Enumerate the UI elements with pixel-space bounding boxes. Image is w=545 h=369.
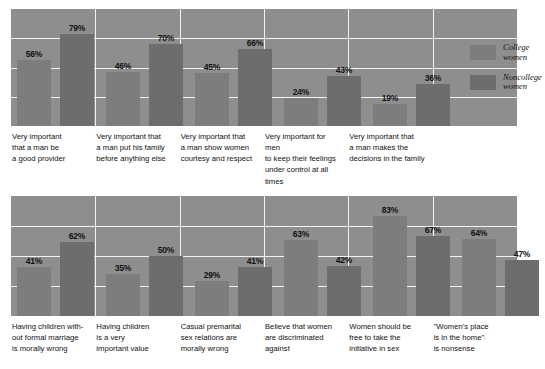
group-caption: Casual premaritalsex relations aremorall… <box>180 321 264 354</box>
bar-college <box>462 239 496 316</box>
bar-value-label: 24% <box>293 87 309 97</box>
bar-value-label: 42% <box>336 255 352 265</box>
bar-value-label: 56% <box>26 49 42 59</box>
bar-value-label: 35% <box>115 263 131 273</box>
bar-group: 45%66% <box>189 9 278 126</box>
bar-column: 67% <box>416 196 450 316</box>
bar-college <box>17 267 51 316</box>
bar-column: 29% <box>195 196 229 316</box>
bar-column: 35% <box>106 196 140 316</box>
bar-column: 36% <box>416 9 450 126</box>
group-caption: Very important thata man makes thedecisi… <box>348 131 432 187</box>
bar-noncollege <box>327 76 361 126</box>
plot-area-top: 56%79%46%70%45%66%24%43%19%36%Collegewom… <box>11 9 517 126</box>
bar-value-label: 63% <box>293 229 309 239</box>
bar-noncollege <box>149 44 183 126</box>
bar-college <box>284 240 318 316</box>
bar-column: 43% <box>327 9 361 126</box>
bar-group: 24%43% <box>278 9 367 126</box>
bar-group: 19%36% <box>367 9 456 126</box>
bar-column: 70% <box>149 9 183 126</box>
bar-column: 56% <box>17 9 51 126</box>
bar-value-label: 83% <box>382 205 398 215</box>
bar-noncollege <box>416 84 450 126</box>
group-caption: Very important thata man put his familyb… <box>95 131 179 187</box>
bar-column: 42% <box>327 196 361 316</box>
bar-group: 64%47% <box>456 196 545 316</box>
group-caption: Very important for mento keep their feel… <box>264 131 348 187</box>
group-caption: Very important thata man show womencourt… <box>180 131 264 187</box>
bar-value-label: 70% <box>158 33 174 43</box>
bar-noncollege <box>238 267 272 316</box>
bar-column: 46% <box>106 9 140 126</box>
bar-column: 64% <box>462 196 496 316</box>
bar-group: 46%70% <box>100 9 189 126</box>
group-caption: Believe that womenare discriminatedagain… <box>264 321 348 354</box>
group-caption: Having childrenis a veryimportant value <box>95 321 179 354</box>
bar-college <box>106 72 140 126</box>
bar-groups-top: 56%79%46%70%45%66%24%43%19%36%Collegewom… <box>11 9 517 126</box>
bar-college <box>284 98 318 126</box>
bar-noncollege <box>238 49 272 126</box>
legend-label-noncollege: Noncollegewomen <box>503 73 542 92</box>
chart-panel-bottom: 41%62%35%50%29%41%63%42%83%67%64%47% Hav… <box>11 196 517 354</box>
legend-item-noncollege: Noncollegewomen <box>470 73 542 92</box>
bar-column: 62% <box>60 196 94 316</box>
bar-group: 35%50% <box>100 196 189 316</box>
group-caption: "Women's placeis in the home"is nonsense <box>433 321 517 354</box>
bar-column: 83% <box>373 196 407 316</box>
chart-legend: CollegewomenNoncollegewomen <box>456 9 542 126</box>
bar-noncollege <box>416 236 450 316</box>
bar-column: 79% <box>60 9 94 126</box>
bar-value-label: 19% <box>382 93 398 103</box>
legend-swatch-noncollege <box>470 75 496 90</box>
group-caption: Having children with-out formal marriage… <box>11 321 95 354</box>
bar-group: 41%62% <box>11 196 100 316</box>
bar-value-label: 64% <box>471 228 487 238</box>
bar-column: 45% <box>195 9 229 126</box>
bar-column: 63% <box>284 196 318 316</box>
bar-college <box>195 73 229 126</box>
bar-college <box>17 60 51 126</box>
bar-value-label: 50% <box>158 245 174 255</box>
legend-label-college: Collegewomen <box>503 43 529 62</box>
bar-value-label: 67% <box>425 225 441 235</box>
legend-item-college: Collegewomen <box>470 43 542 62</box>
bar-value-label: 47% <box>514 249 530 259</box>
bar-value-label: 46% <box>115 61 131 71</box>
group-captions-top: Very importantthat a man bea good provid… <box>11 131 517 187</box>
bar-value-label: 41% <box>247 256 263 266</box>
bar-value-label: 41% <box>26 256 42 266</box>
bar-value-label: 43% <box>336 65 352 75</box>
bar-value-label: 36% <box>425 73 441 83</box>
bar-noncollege <box>327 266 361 316</box>
bar-column: 47% <box>505 196 539 316</box>
bar-group: 63%42% <box>278 196 367 316</box>
group-captions-bottom: Having children with-out formal marriage… <box>11 321 517 354</box>
bar-value-label: 62% <box>69 231 85 241</box>
bar-noncollege <box>505 260 539 316</box>
bar-noncollege <box>60 242 94 316</box>
bar-college <box>195 281 229 316</box>
bar-groups-bottom: 41%62%35%50%29%41%63%42%83%67%64%47% <box>11 196 517 316</box>
chart-panel-top: 56%79%46%70%45%66%24%43%19%36%Collegewom… <box>11 9 517 187</box>
bar-group: 83%67% <box>367 196 456 316</box>
bar-column: 66% <box>238 9 272 126</box>
bar-college <box>106 274 140 316</box>
bar-value-label: 79% <box>69 23 85 33</box>
plot-area-bottom: 41%62%35%50%29%41%63%42%83%67%64%47% <box>11 196 517 316</box>
bar-column: 50% <box>149 196 183 316</box>
bar-column: 41% <box>17 196 51 316</box>
legend-swatch-college <box>470 45 496 60</box>
bar-column: 24% <box>284 9 318 126</box>
bar-value-label: 45% <box>204 62 220 72</box>
bar-value-label: 66% <box>247 38 263 48</box>
bar-noncollege <box>149 256 183 316</box>
bar-college <box>373 216 407 316</box>
bar-noncollege <box>60 34 94 126</box>
bar-column: 41% <box>238 196 272 316</box>
bar-college <box>373 104 407 126</box>
group-caption: Very importantthat a man bea good provid… <box>11 131 95 187</box>
bar-value-label: 29% <box>204 270 220 280</box>
